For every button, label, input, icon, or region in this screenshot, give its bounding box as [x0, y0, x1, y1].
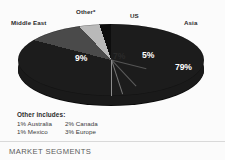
section-divider [0, 141, 225, 142]
pie-chart: Middle East Other* US Asia 9% 7% 5% 79% … [0, 0, 225, 138]
footnote-pct-australia: 1% [17, 120, 26, 127]
footnote-name-australia: Australia [27, 120, 52, 127]
footnote-name-mexico: Mexico [28, 128, 48, 135]
footnote-title: Other includes: [17, 111, 167, 118]
pie-value-other: 7% [113, 51, 125, 61]
footnote-item-canada: 2% Canada [65, 120, 167, 127]
footnote-item-mexico: 1% Mexico [17, 128, 61, 135]
pie-top-face [18, 24, 204, 96]
footnote-item-australia: 1% Australia [17, 120, 61, 127]
footnote-list: 1% Australia 2% Canada 1% Mexico 3% Euro… [17, 120, 167, 135]
footnote-pct-mexico: 1% [17, 128, 26, 135]
pie-label-us: US [130, 12, 139, 19]
pie-value-middle-east: 9% [75, 53, 87, 63]
footnote-item-europe: 3% Europe [65, 128, 167, 135]
figure-caption: MARKET SEGMENTS [9, 147, 91, 156]
footnote-pct-canada: 2% [65, 120, 74, 127]
footnote-name-europe: Europe [76, 128, 96, 135]
slice-divider-us [111, 60, 112, 96]
pie-value-us: 5% [142, 50, 154, 60]
pie-label-other: Other* [76, 8, 96, 15]
footnote-name-canada: Canada [76, 120, 98, 127]
pie-graphic: 9% 7% 5% 79% [18, 24, 204, 106]
market-segments-figure: Middle East Other* US Asia 9% 7% 5% 79% … [0, 0, 225, 160]
pie-value-asia: 79% [175, 62, 192, 72]
footnote-pct-europe: 3% [65, 128, 74, 135]
footnote-block: Other includes: 1% Australia 2% Canada 1… [17, 111, 167, 135]
